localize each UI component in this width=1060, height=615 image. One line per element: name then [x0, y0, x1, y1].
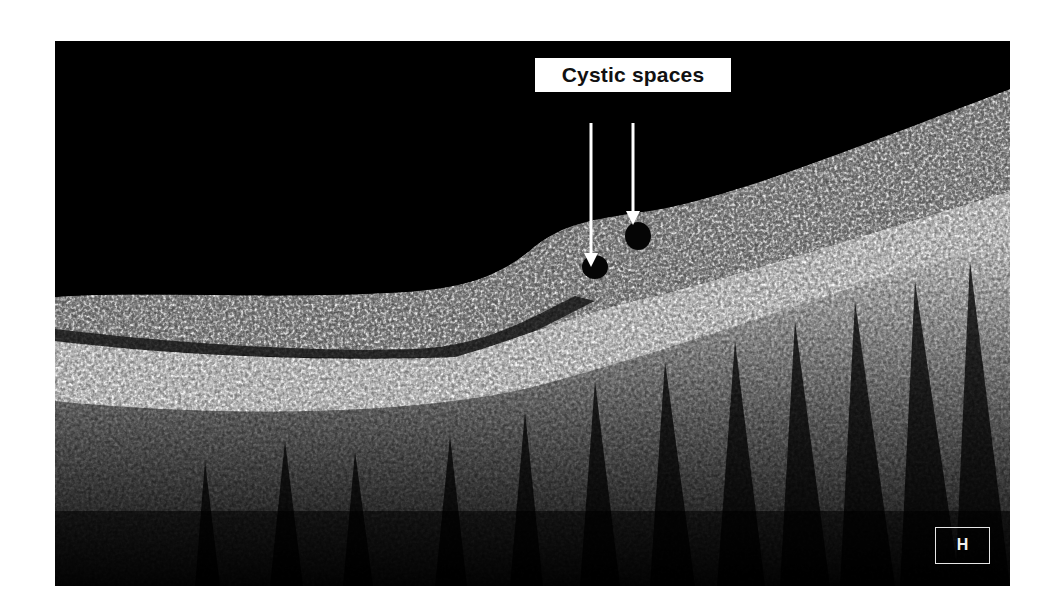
oct-scan-figure: Cystic spaces H [55, 41, 1010, 586]
panel-label-h: H [935, 527, 990, 564]
oct-scan-image [55, 41, 1010, 586]
cystic-space-2 [625, 222, 651, 250]
cystic-spaces-label: Cystic spaces [535, 58, 731, 92]
